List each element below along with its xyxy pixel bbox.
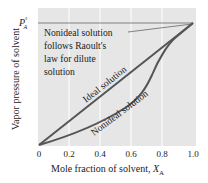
svg-text:1.0: 1.0 [187, 149, 199, 159]
svg-text:0.4: 0.4 [94, 149, 106, 159]
svg-text:0.8: 0.8 [156, 149, 168, 159]
x-tick-labels: 0 0.2 0.4 0.6 0.8 1.0 [37, 149, 199, 159]
svg-text:0: 0 [37, 149, 42, 159]
svg-text:0.2: 0.2 [63, 149, 74, 159]
svg-text:0.6: 0.6 [125, 149, 137, 159]
vapor-pressure-chart: P°A Nonideal solution follows Raoult's l… [0, 0, 208, 183]
y-axis-label: Vapor pressure of solvent [10, 28, 21, 130]
y-tick-pa: P°A [18, 17, 28, 30]
x-axis-label: Mole fraction of solvent, XA [51, 163, 164, 177]
